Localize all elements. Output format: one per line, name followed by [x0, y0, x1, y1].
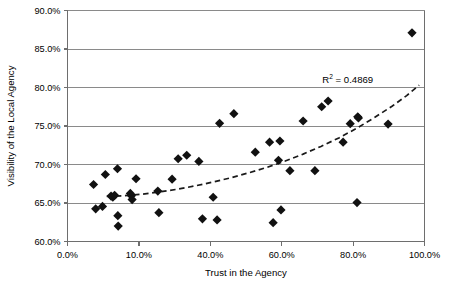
data-point: [101, 170, 110, 179]
y-tick-label: 65.0%: [34, 198, 60, 208]
trendline: [107, 85, 419, 196]
data-point: [269, 218, 278, 227]
x-tick-label: 10.0%: [126, 250, 152, 260]
data-point: [182, 151, 191, 160]
y-tick-label: 60.0%: [34, 237, 60, 247]
data-point: [276, 205, 285, 214]
data-point: [339, 138, 348, 147]
data-point: [209, 193, 218, 202]
x-axis-tick-labels: 0.0%10.0%40.0%60.0%80.0%100.0%: [57, 250, 440, 260]
chart-annotations: R2 = 0.4869: [322, 73, 373, 85]
data-point: [251, 148, 260, 157]
data-point: [113, 164, 122, 173]
y-tick-label: 75.0%: [34, 121, 60, 131]
x-tick-label: 80.0%: [340, 250, 366, 260]
y-tick-label: 70.0%: [34, 160, 60, 170]
x-tick-label: 60.0%: [269, 250, 295, 260]
data-point: [154, 208, 163, 217]
x-tick-label: 0.0%: [57, 250, 78, 260]
chart-canvas: 60.0%65.0%70.0%75.0%80.0%85.0%90.0% 0.0%…: [0, 0, 450, 281]
data-points: [89, 28, 417, 230]
y-axis-tick-labels: 60.0%65.0%70.0%75.0%80.0%85.0%90.0%: [34, 6, 60, 247]
r-squared-annotation: R2 = 0.4869: [322, 73, 373, 85]
x-tick-label: 40.0%: [197, 250, 223, 260]
data-point: [274, 156, 283, 165]
data-point: [299, 116, 308, 125]
data-point: [352, 198, 361, 207]
data-point: [317, 102, 326, 111]
y-tick-label: 80.0%: [34, 83, 60, 93]
trendline-path: [107, 85, 419, 196]
data-point: [153, 186, 162, 195]
data-point: [215, 119, 224, 128]
data-point: [212, 215, 221, 224]
x-axis-title: Trust in the Agency: [205, 267, 287, 278]
data-point: [346, 119, 355, 128]
data-point: [174, 154, 183, 163]
data-point: [113, 211, 122, 220]
data-point: [114, 222, 123, 231]
y-tick-label: 85.0%: [34, 44, 60, 54]
y-axis-title: Visibility of the Local Agency: [5, 65, 16, 186]
data-point: [285, 166, 294, 175]
data-point: [131, 174, 140, 183]
data-point: [383, 119, 392, 128]
data-point: [310, 166, 319, 175]
data-point: [275, 136, 284, 145]
data-point: [324, 96, 333, 105]
data-point: [89, 180, 98, 189]
data-point: [229, 109, 238, 118]
scatter-chart: 60.0%65.0%70.0%75.0%80.0%85.0%90.0% 0.0%…: [0, 0, 450, 281]
tick-marks: [64, 11, 425, 246]
data-point: [198, 214, 207, 223]
data-point: [265, 138, 274, 147]
x-tick-label: 100.0%: [409, 250, 440, 260]
data-point: [407, 28, 416, 37]
y-tick-label: 90.0%: [34, 6, 60, 16]
data-point: [168, 175, 177, 184]
